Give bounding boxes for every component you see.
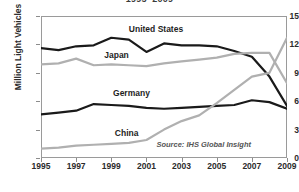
x-tick-mark <box>111 158 112 162</box>
x-tick-mark <box>182 158 183 162</box>
series-label-united-states: United States <box>129 24 183 34</box>
x-tick-label: 1999 <box>91 162 131 171</box>
x-tick-label: 2003 <box>162 162 202 171</box>
x-tick-label: 2007 <box>232 162 272 171</box>
x-tick-mark <box>252 158 253 162</box>
x-tick-label: 1995 <box>21 162 61 171</box>
x-tick-label: 2009 <box>267 162 299 171</box>
plot-lines <box>41 16 287 158</box>
series-label-japan: Japan <box>104 50 129 60</box>
x-tick-label: 1997 <box>56 162 96 171</box>
chart-figure: 1995–2009 Million Light Vehicles 0369121… <box>0 0 299 192</box>
series-label-germany: Germany <box>113 88 150 98</box>
x-tick-mark <box>217 158 218 162</box>
x-tick-mark <box>76 158 77 162</box>
x-tick-mark <box>146 158 147 162</box>
x-tick-label: 2005 <box>197 162 237 171</box>
y-tick-mark <box>36 73 40 74</box>
y-tick-mark <box>36 158 40 159</box>
series-line-china <box>41 38 287 149</box>
y-axis-title: Million Light Vehicles <box>13 0 23 102</box>
chart-title: 1995–2009 <box>0 0 299 2</box>
series-label-china: China <box>115 128 139 138</box>
x-tick-mark <box>41 158 42 162</box>
x-tick-label: 2001 <box>126 162 166 171</box>
y-tick-mark <box>36 16 40 17</box>
y-tick-mark <box>36 130 40 131</box>
x-tick-mark <box>287 158 288 162</box>
y-tick-mark <box>36 44 40 45</box>
source-note: Source: IHS Global Insight <box>156 140 251 149</box>
y-tick-mark <box>36 101 40 102</box>
series-line-germany <box>41 100 287 114</box>
series-line-united-states <box>41 38 287 106</box>
